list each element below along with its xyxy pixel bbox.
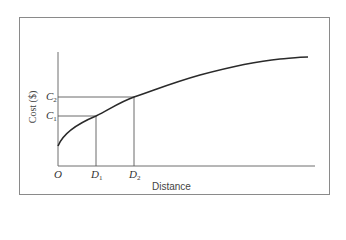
cost-curve bbox=[58, 57, 308, 146]
c1-label: C1 bbox=[46, 110, 57, 123]
d1-sub: 1 bbox=[99, 174, 103, 182]
origin-text: O bbox=[54, 168, 62, 180]
c1-sub: 1 bbox=[53, 115, 57, 123]
y-axis-title: Cost ($) bbox=[28, 91, 38, 124]
c2-sub: 2 bbox=[53, 96, 57, 104]
d2-sub: 2 bbox=[137, 174, 141, 182]
d1-main: D bbox=[91, 168, 99, 180]
x-axis-title: Distance bbox=[152, 182, 191, 192]
d2-label: D2 bbox=[129, 169, 140, 182]
d2-main: D bbox=[129, 168, 137, 180]
c2-label: C2 bbox=[46, 91, 57, 104]
origin-label: O bbox=[54, 169, 62, 180]
d1-label: D1 bbox=[91, 169, 102, 182]
